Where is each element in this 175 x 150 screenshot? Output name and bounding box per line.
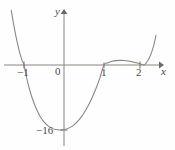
function-curve bbox=[11, 10, 156, 130]
x-axis-label: x bbox=[161, 66, 166, 77]
origin-label: 0 bbox=[55, 66, 61, 77]
graph-figure: y x 0 −1 1 2 −16 bbox=[0, 0, 175, 150]
y-axis-label: y bbox=[55, 6, 60, 17]
y-axis-arrow-icon bbox=[61, 9, 68, 14]
x-tick-label-2: 2 bbox=[136, 67, 142, 78]
tick-marks-group bbox=[24, 62, 140, 131]
y-tick-label-neg16: −16 bbox=[36, 125, 53, 136]
x-tick-label-neg1: −1 bbox=[17, 67, 29, 78]
x-tick-label-1: 1 bbox=[101, 67, 107, 78]
